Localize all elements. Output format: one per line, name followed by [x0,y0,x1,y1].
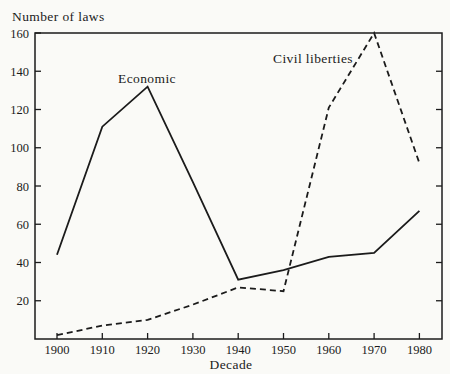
x-tick-label: 1910 [90,343,115,357]
x-axis-title: Decade [210,357,253,373]
x-tick-label: 1900 [45,343,70,357]
y-tick-label: 40 [17,256,30,270]
x-tick-label: 1970 [362,343,387,357]
y-tick-label: 60 [17,218,30,232]
x-tick-label: 1920 [135,343,160,357]
x-tick-label: 1930 [180,343,205,357]
series-line-economic [57,87,419,280]
series-label-economic: Economic [118,71,176,87]
x-tick-label: 1980 [407,343,432,357]
x-tick-label: 1950 [271,343,296,357]
series-line-civil-liberties [57,33,419,335]
series-label-civil-liberties: Civil liberties [273,51,353,67]
chart-figure: Number of laws 2040608010012014016019001… [0,0,450,374]
line-chart-svg: 2040608010012014016019001910192019301940… [0,0,450,374]
x-tick-label: 1960 [316,343,341,357]
y-tick-label: 140 [10,65,29,79]
y-tick-label: 80 [17,180,30,194]
y-tick-label: 100 [10,141,29,155]
plot-frame [35,33,442,339]
y-tick-label: 120 [10,103,29,117]
y-tick-label: 20 [17,294,30,308]
x-tick-label: 1940 [226,343,251,357]
y-tick-label: 160 [10,27,29,41]
